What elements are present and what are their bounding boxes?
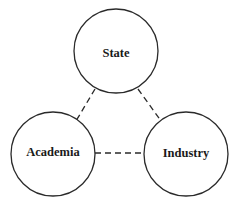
edge-state-industry: [138, 89, 161, 121]
industry-label: Industry: [163, 146, 210, 160]
node-state: State: [74, 9, 158, 93]
state-label: State: [102, 46, 130, 60]
node-academia: Academia: [11, 112, 95, 196]
academia-label: Academia: [26, 145, 80, 159]
triple-helix-diagram: State Academia Industry: [0, 0, 241, 205]
node-industry: Industry: [144, 112, 228, 196]
edge-state-academia: [76, 89, 95, 121]
